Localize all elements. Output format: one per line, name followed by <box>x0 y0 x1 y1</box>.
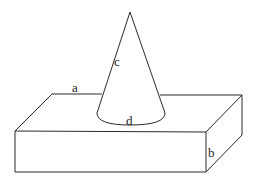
box-front-face <box>15 131 206 172</box>
cone <box>97 12 165 125</box>
cone-on-box-diagram: a b c d <box>0 0 254 180</box>
box-top-right-edge <box>206 95 242 132</box>
cone-right-slant <box>130 12 165 113</box>
box <box>15 94 242 172</box>
label-d: d <box>126 113 133 128</box>
label-c: c <box>114 54 120 69</box>
label-b: b <box>208 145 215 160</box>
label-a: a <box>72 80 78 95</box>
box-top-left-edge <box>15 94 52 131</box>
